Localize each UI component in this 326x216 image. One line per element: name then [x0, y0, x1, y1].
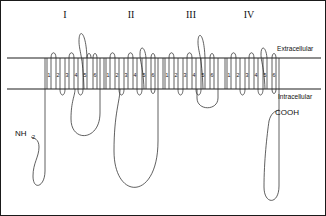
extracellular-label: Extracellular	[277, 45, 314, 52]
domain-IV-seg-5: 5	[264, 72, 267, 78]
domain-label-III: III	[186, 9, 196, 20]
domain-III-seg-3: 3	[184, 72, 187, 78]
domain-II-seg-5: 5	[143, 72, 146, 78]
c-terminus-tail	[264, 89, 279, 200]
linker-III-IV	[197, 89, 218, 108]
n-terminus-label: NH 2	[15, 129, 35, 140]
domain-I-seg-3: 3	[66, 72, 69, 78]
domain-II-seg-3: 3	[125, 72, 128, 78]
domain-IV-seg-2: 2	[237, 72, 240, 78]
channel-topology-diagram: 1 2 3 4 5 6	[1, 1, 326, 216]
domain-IV-seg-1: 1	[228, 72, 231, 78]
domain-I-seg-4: 4	[75, 72, 78, 78]
domain-label-II: II	[128, 9, 135, 20]
domain-II-seg-2: 2	[116, 72, 119, 78]
domain-I-seg-2: 2	[57, 72, 60, 78]
figure-frame: 1 2 3 4 5 6	[0, 0, 326, 216]
domain-I-seg-5: 5	[84, 72, 87, 78]
domain-III-seg-4: 4	[193, 72, 196, 78]
intracellular-label: Intracellular	[278, 93, 313, 100]
n-terminus-text: NH	[15, 129, 27, 138]
domain-III-seg-2: 2	[175, 72, 178, 78]
domain-I-seg-1: 1	[48, 72, 51, 78]
domain-IV-seg-6: 6	[273, 72, 276, 78]
domain-label-IV: IV	[244, 9, 255, 20]
domain-III-seg-1: 1	[166, 72, 169, 78]
domain-III-seg-5: 5	[202, 72, 205, 78]
domain-II-seg-4: 4	[134, 72, 137, 78]
domain-label-I: I	[63, 9, 66, 20]
domain-IV-seg-4: 4	[255, 72, 258, 78]
linker-II-III	[114, 89, 158, 187]
linker-I-II	[71, 89, 100, 136]
n-terminus-subscript: 2	[32, 134, 35, 140]
c-terminus-label: COOH	[275, 108, 299, 117]
domain-III-seg-6: 6	[211, 72, 214, 78]
domain-II-seg-6: 6	[152, 72, 155, 78]
domain-IV-seg-3: 3	[246, 72, 249, 78]
domain-II-seg-1: 1	[107, 72, 110, 78]
domain-I-seg-6: 6	[94, 72, 97, 78]
